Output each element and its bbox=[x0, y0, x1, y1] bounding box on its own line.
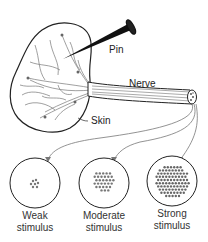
caption-line: stimulus bbox=[142, 220, 202, 232]
weak-stimulus-circle bbox=[10, 158, 60, 208]
pin-label: Pin bbox=[109, 44, 123, 55]
caption-line: stimulus bbox=[5, 222, 65, 234]
caption-line: Moderate bbox=[74, 210, 134, 222]
skin-label: Skin bbox=[91, 115, 110, 126]
moderate-stimulus-circle bbox=[79, 158, 129, 208]
caption-line: Strong bbox=[142, 208, 202, 220]
weak-stimulus-caption: Weak stimulus bbox=[5, 210, 65, 234]
skin-patch bbox=[10, 23, 92, 132]
caption-line: Weak bbox=[5, 210, 65, 222]
moderate-stimulus-caption: Moderate stimulus bbox=[74, 210, 134, 234]
strong-stimulus-circle bbox=[147, 156, 197, 206]
caption-line: stimulus bbox=[74, 222, 134, 234]
strong-stimulus-caption: Strong stimulus bbox=[142, 208, 202, 232]
nerve-label: Nerve bbox=[129, 78, 156, 89]
